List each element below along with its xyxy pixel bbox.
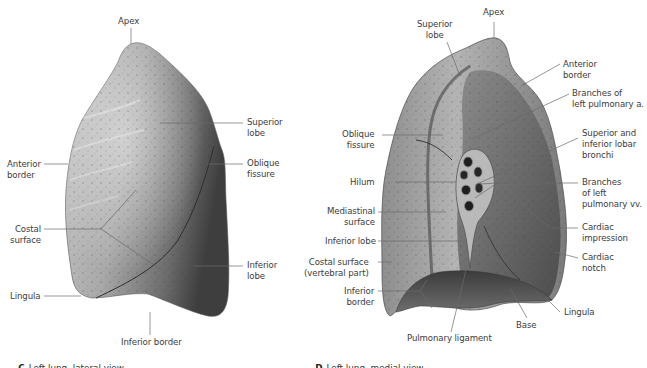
caption-c-letter: C: [18, 363, 24, 368]
label-d-hilum: Hilum: [350, 177, 375, 188]
label-d-mediastinal-surface: Mediastinal surface: [327, 206, 375, 228]
label-c-anterior-border: Anterior border: [7, 159, 41, 181]
label-d-lobar-bronchi: Superior and inferior lobar bronchi: [582, 128, 636, 161]
label-d-costal-surface-vertebral: Costal surface (vertebral part): [304, 257, 369, 279]
caption-c: CLeft lung, lateral view.: [7, 352, 126, 368]
label-c-lingula: Lingula: [10, 291, 40, 302]
anatomy-figure: Apex Superior lobe Anterior border Obliq…: [0, 0, 647, 368]
label-c-inferior-border: Inferior border: [121, 337, 182, 348]
label-d-anterior-border: Anterior border: [563, 59, 597, 81]
caption-c-text: Left lung, lateral view.: [29, 363, 126, 368]
label-d-superior-lobe: Superior lobe: [417, 19, 453, 41]
lung-lateral-view: [65, 43, 228, 317]
label-d-cardiac-notch: Cardiac notch: [582, 252, 614, 274]
caption-d-text: Left lung, medial view.: [327, 363, 426, 368]
label-d-apex: Apex: [483, 7, 504, 18]
label-c-superior-lobe: Superior lobe: [247, 117, 283, 139]
label-d-branches-pulmonary-a: Branches of left pulmonary a.: [572, 88, 644, 110]
caption-d: DLeft lung, medial view.: [304, 352, 426, 368]
caption-d-letter: D: [315, 363, 322, 368]
lung-illustrations: [0, 0, 647, 368]
label-c-costal-surface: Costal surface: [10, 224, 41, 246]
lung-medial-view: [382, 38, 567, 316]
label-c-inferior-lobe: Inferior lobe: [247, 260, 277, 282]
label-d-branches-pulmonary-vv: Branches of left pulmonary vv.: [582, 177, 642, 210]
label-c-oblique-fissure: Oblique fissure: [247, 158, 279, 180]
label-d-base: Base: [516, 320, 537, 331]
label-d-cardiac-impression: Cardiac impression: [582, 222, 628, 244]
label-d-lingula: Lingula: [564, 307, 594, 318]
label-c-apex: Apex: [118, 16, 139, 27]
label-d-inferior-border: Inferior border: [344, 286, 374, 308]
label-d-oblique-fissure: Oblique fissure: [342, 129, 374, 151]
label-d-inferior-lobe: Inferior lobe: [325, 236, 376, 247]
label-d-pulmonary-ligament: Pulmonary ligament: [407, 333, 492, 344]
